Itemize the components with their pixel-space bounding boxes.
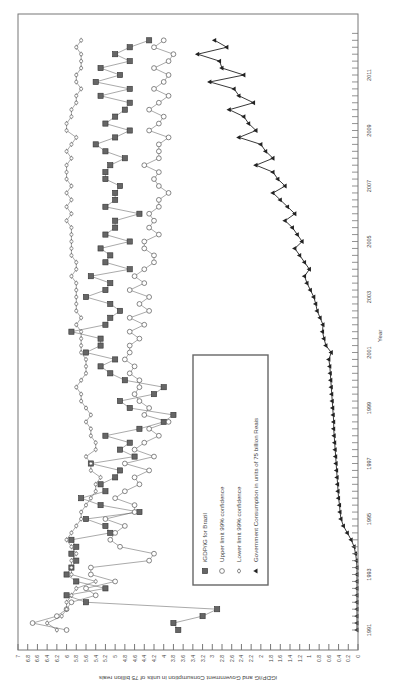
y-axis-title: iGDP/iG and Government Consumption in un…	[99, 675, 277, 682]
y-tick-label: 6	[64, 655, 70, 658]
rotated-line-chart: 00.20.40.60.811.21.41.61.822.22.42.62.83…	[0, 0, 394, 691]
chart-container: 00.20.40.60.811.21.41.61.822.22.42.62.83…	[0, 0, 394, 691]
y-tick-label: 4.8	[122, 655, 128, 662]
legend-item-label: Government Consumption in units of 75 bi…	[252, 418, 259, 562]
legend: iGDP/iG for BrazilUpper limit 99% confid…	[193, 355, 268, 585]
y-tick-label: 3.8	[170, 655, 176, 662]
y-tick-label: 7	[15, 655, 21, 658]
x-tick-label: 2009	[366, 124, 372, 136]
y-tick-label: 0.8	[316, 655, 322, 662]
y-tick-label: 5.6	[83, 655, 89, 662]
x-tick-label: 1997	[366, 457, 372, 469]
x-tick-label: 2011	[366, 69, 372, 81]
y-tick-label: 6.6	[34, 655, 40, 662]
x-tick-label: 2001	[366, 346, 372, 358]
y-tick-label: 1.8	[268, 655, 274, 662]
y-tick-label: 3	[209, 655, 215, 658]
y-tick-label: 5.4	[93, 655, 99, 662]
y-tick-label: 0.4	[336, 655, 342, 662]
legend-item-label: iGDP/iG for Brazil	[201, 513, 208, 562]
x-tick-label: 1993	[366, 568, 372, 580]
x-tick-label: 2005	[366, 235, 372, 247]
x-tick-label: 2007	[366, 180, 372, 192]
y-tick-label: 2.6	[229, 655, 235, 662]
y-tick-label: 0.6	[326, 655, 332, 662]
y-tick-label: 3.4	[190, 655, 196, 662]
series-1	[30, 38, 176, 632]
y-tick-label: 1.2	[297, 655, 303, 662]
legend-item-label: Lower limit 99% confidence	[235, 486, 242, 562]
y-tick-label: 4.2	[151, 655, 157, 662]
y-tick-label: 1	[306, 655, 312, 658]
x-tick-label: 1991	[366, 624, 372, 636]
y-tick-label: 5	[112, 655, 118, 658]
y-tick-label: 6.4	[44, 655, 50, 662]
x-tick-label: 1999	[366, 402, 372, 414]
y-tick-label: 6.2	[54, 655, 60, 662]
y-tick-label: 0.2	[345, 655, 351, 662]
y-tick-label: 4	[161, 655, 167, 658]
y-tick-label: 3.6	[180, 655, 186, 662]
y-tick-label: 2.2	[248, 655, 254, 662]
legend-item-label: Upper limit 99% confidence	[218, 486, 225, 562]
x-tick-label: 2003	[366, 291, 372, 303]
x-axis-title: Year	[377, 330, 383, 342]
y-tick-label: 6.8	[25, 655, 31, 662]
y-tick-label: 0	[355, 655, 361, 658]
y-tick-label: 2	[258, 655, 264, 658]
y-tick-label: 1.6	[277, 655, 283, 662]
y-tick-label: 2.4	[238, 655, 244, 662]
y-tick-label: 2.8	[219, 655, 225, 662]
y-tick-label: 1.4	[287, 655, 293, 662]
y-tick-label: 5.8	[73, 655, 79, 662]
x-tick-label: 1995	[366, 513, 372, 525]
y-tick-label: 4.4	[141, 655, 147, 662]
y-tick-label: 5.2	[102, 655, 108, 662]
y-tick-label: 4.6	[132, 655, 138, 662]
y-tick-label: 3.2	[200, 655, 206, 662]
